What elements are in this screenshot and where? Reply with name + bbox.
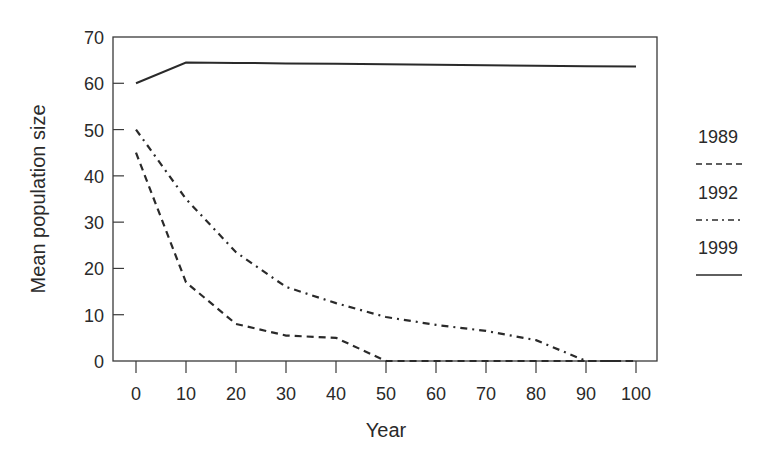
series-1999-line (136, 62, 636, 83)
legend-label-1992: 1992 (698, 183, 738, 203)
y-axis-title: Mean population size (27, 104, 49, 293)
legend-label-1989: 1989 (698, 127, 738, 147)
y-tick-label: 70 (84, 28, 104, 48)
x-tick-label: 70 (476, 384, 496, 404)
data-series (136, 62, 636, 361)
x-tick-label: 0 (131, 384, 141, 404)
x-axis-title: Year (366, 419, 407, 441)
x-axis-ticks: 0102030405060708090100 (131, 361, 651, 404)
legend-label-1999: 1999 (698, 238, 738, 258)
x-tick-label: 20 (226, 384, 246, 404)
y-tick-label: 30 (84, 213, 104, 233)
y-axis-ticks: 010203040506070 (84, 28, 124, 372)
x-tick-label: 50 (376, 384, 396, 404)
y-tick-label: 10 (84, 306, 104, 326)
y-tick-label: 60 (84, 74, 104, 94)
y-tick-label: 20 (84, 259, 104, 279)
x-tick-label: 80 (526, 384, 546, 404)
x-tick-label: 60 (426, 384, 446, 404)
line-chart: 010203040506070 0102030405060708090100 M… (0, 0, 768, 459)
x-tick-label: 40 (326, 384, 346, 404)
y-tick-label: 40 (84, 167, 104, 187)
plot-frame (113, 37, 657, 361)
series-1989-line (136, 153, 636, 361)
legend: 198919921999 (696, 127, 742, 275)
y-tick-label: 50 (84, 121, 104, 141)
x-tick-label: 100 (621, 384, 651, 404)
series-1992-line (136, 130, 636, 361)
x-tick-label: 30 (276, 384, 296, 404)
x-tick-label: 90 (576, 384, 596, 404)
y-tick-label: 0 (94, 352, 104, 372)
x-tick-label: 10 (176, 384, 196, 404)
